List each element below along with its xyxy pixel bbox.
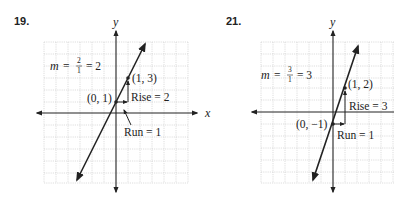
- point-a-label: (0, −1): [296, 118, 328, 131]
- problem-number: 21.: [226, 15, 241, 27]
- point-1-2: [343, 86, 347, 90]
- svg-text:=: =: [274, 69, 281, 81]
- y-axis-label: y: [112, 15, 119, 29]
- run-pointer: [124, 110, 131, 125]
- svg-text:m: m: [261, 68, 270, 82]
- point-1-3: [126, 76, 130, 80]
- graph-21: 21. y m = 3 1 = 3: [226, 15, 394, 192]
- svg-text:m: m: [50, 59, 59, 73]
- slope-label: m = 2 1 = 2: [50, 56, 101, 75]
- run-label: Run = 1: [337, 129, 374, 141]
- figure-canvas: 19. y x m = 2 1: [0, 0, 394, 202]
- rise-label: Rise = 3: [349, 100, 388, 112]
- problem-number: 19.: [14, 15, 29, 27]
- svg-text:1: 1: [288, 75, 292, 84]
- svg-text:= 3: = 3: [297, 69, 312, 81]
- slope-label: m = 3 1 = 3: [261, 65, 312, 84]
- svg-text:=: =: [63, 60, 70, 72]
- graph-19: 19. y x m = 2 1: [14, 15, 211, 192]
- point-b-label: (1, 3): [132, 72, 157, 85]
- x-axis-label: x: [204, 106, 211, 120]
- svg-text:= 2: = 2: [86, 60, 101, 72]
- svg-text:2: 2: [77, 56, 81, 65]
- point-a-label: (0, 1): [87, 92, 112, 105]
- y-axis-label: y: [329, 15, 336, 29]
- svg-text:3: 3: [288, 65, 292, 74]
- svg-text:1: 1: [77, 66, 81, 75]
- point-b-label: (1, 2): [348, 78, 373, 91]
- run-label: Run = 1: [124, 126, 161, 138]
- rise-label: Rise = 2: [131, 91, 170, 103]
